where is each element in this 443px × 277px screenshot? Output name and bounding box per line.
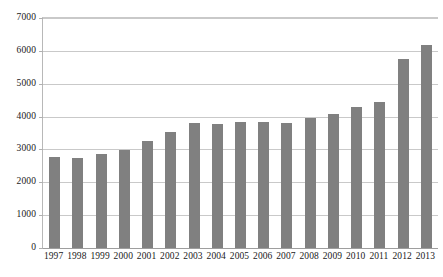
x-tick-label: 2011 <box>369 250 388 262</box>
x-tick-label: 2001 <box>137 250 156 262</box>
bar <box>96 154 107 248</box>
bar <box>142 141 153 248</box>
x-tick-label: 2008 <box>300 250 319 262</box>
bar <box>165 132 176 248</box>
bar-chart: 01000200030004000500060007000 1997199819… <box>0 0 443 277</box>
y-axis: 01000200030004000500060007000 <box>0 0 40 277</box>
bar <box>119 150 130 248</box>
bar <box>258 122 269 249</box>
bar <box>212 124 223 248</box>
bar <box>398 59 409 248</box>
bar <box>281 123 292 248</box>
x-tick-label: 1998 <box>67 250 86 262</box>
bar <box>72 158 83 248</box>
x-tick-label: 2002 <box>160 250 179 262</box>
x-tick-label: 2013 <box>416 250 435 262</box>
x-tick-label: 2009 <box>323 250 342 262</box>
x-tick-label: 1997 <box>44 250 63 262</box>
x-tick-label: 2010 <box>346 250 365 262</box>
y-tick-label: 4000 <box>17 111 36 121</box>
bar <box>351 107 362 248</box>
y-tick-label: 7000 <box>17 12 36 22</box>
bar <box>305 118 316 248</box>
y-tick-label: 1000 <box>17 209 36 219</box>
y-tick-label: 2000 <box>17 176 36 186</box>
y-tick-label: 0 <box>31 242 36 252</box>
x-tick-label: 2012 <box>392 250 411 262</box>
y-tick-label: 5000 <box>17 78 36 88</box>
bar <box>421 45 432 248</box>
bar <box>328 114 339 248</box>
bar <box>49 157 60 248</box>
x-tick-label: 1999 <box>90 250 109 262</box>
axis-baseline <box>43 248 438 249</box>
y-tick-label: 3000 <box>17 143 36 153</box>
y-tick-mark <box>39 248 43 249</box>
x-tick-label: 2003 <box>183 250 202 262</box>
x-tick-label: 2000 <box>114 250 133 262</box>
bar <box>374 102 385 248</box>
x-tick-label: 2004 <box>207 250 226 262</box>
x-tick-label: 2005 <box>230 250 249 262</box>
y-tick-label: 6000 <box>17 45 36 55</box>
x-tick-label: 2006 <box>253 250 272 262</box>
x-axis: 1997199819992000200120022003200420052006… <box>42 250 437 270</box>
bars-group <box>43 18 438 248</box>
x-tick-label: 2007 <box>276 250 295 262</box>
bar <box>235 122 246 248</box>
bar <box>189 123 200 248</box>
plot-area <box>42 17 438 248</box>
